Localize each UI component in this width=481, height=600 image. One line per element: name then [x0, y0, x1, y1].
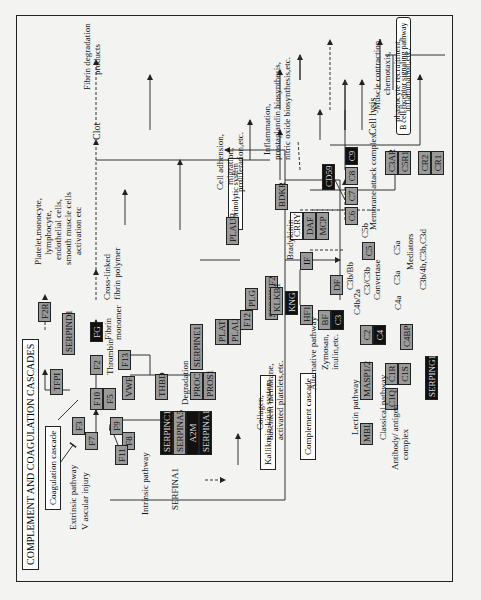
gene-MASP12[interactable]: MASP1/2: [360, 362, 373, 400]
label-mediators: Mediators: [405, 234, 415, 271]
gene-SERPINA5[interactable]: SERPINA5: [173, 411, 186, 455]
label-fdp-2: products: [92, 44, 102, 75]
gene-SERPINE1[interactable]: SERPINE1: [190, 324, 203, 370]
gene-CR1[interactable]: CR1: [431, 151, 444, 175]
label-platelet-1: Platelet,monocyte,: [33, 198, 43, 265]
label-muscle-1: Muscle contraction,: [372, 39, 382, 110]
label-crosslinked-2: fibrin polymer: [112, 248, 122, 300]
pathway-diagram: COMPLEMENT AND COAGULATION CASCADES Coag…: [0, 0, 481, 600]
gene-C8[interactable]: C8: [345, 167, 358, 185]
gene-C2[interactable]: C2: [360, 325, 373, 345]
label-vascular: V ascular injury: [80, 472, 90, 530]
gene-F7[interactable]: F7: [85, 432, 98, 450]
gene-C3AR[interactable]: C3AR: [385, 151, 398, 175]
gene-C3[interactable]: C3: [331, 310, 344, 330]
gene-SERPING1[interactable]: SERPING1: [425, 356, 438, 400]
label-lectin: Lectin pathway: [350, 379, 360, 435]
label-muscle-3: phagocyte recruitment,: [392, 39, 402, 122]
label-c3b-list: C3b/4b,C3b,C3d: [418, 229, 428, 290]
label-collagen-3: activated platelets,etc.: [275, 360, 285, 440]
gene-PLAUR[interactable]: PLAUR: [226, 217, 239, 245]
label-fibrin-monomer-2: monomer: [113, 306, 123, 341]
gene-C5R1[interactable]: C5R1: [398, 151, 411, 175]
label-celladh-3: proliferation,etc.: [235, 132, 245, 192]
label-classical: Classical pathway: [378, 375, 388, 440]
gene-A2M[interactable]: A2M: [186, 411, 199, 455]
label-crosslinked-1: Cross-linked: [102, 254, 112, 300]
gene-SERPINC1[interactable]: SERPINC1: [160, 411, 173, 455]
label-c4b-2a: C4b/2a: [352, 289, 362, 315]
gene-SERPIND1[interactable]: SERPIND1: [62, 313, 75, 355]
label-thrombin: Thrombin: [105, 339, 115, 375]
label-celladh-2: migration,: [225, 148, 235, 185]
label-convertase-2: Convertase: [372, 260, 382, 301]
label-collagen-1: Collagen,: [255, 395, 265, 430]
gene-F2R[interactable]: F2R: [38, 302, 51, 322]
gene-F10[interactable]: F10: [90, 388, 103, 410]
gene-TFPI[interactable]: TFPI: [50, 369, 63, 395]
gene-C4[interactable]: C4: [373, 325, 386, 345]
gene-F2[interactable]: F2: [90, 355, 103, 375]
label-antibody-2: complex: [400, 429, 410, 460]
gene-DAF[interactable]: DAF: [303, 212, 316, 240]
gene-C5[interactable]: C5: [362, 242, 375, 260]
label-inflam-3: nitric oxide biosynthesis,etc.: [282, 57, 292, 160]
gene-F5[interactable]: F5: [103, 388, 116, 410]
gene-F11[interactable]: F11: [115, 445, 128, 465]
label-inflam-1: Inflammation,: [262, 104, 272, 155]
label-c5a: C5a: [392, 241, 402, 256]
gene-KNG[interactable]: KNG: [285, 291, 298, 315]
gene-C6[interactable]: C6: [345, 207, 358, 225]
gene-C1S[interactable]: C1S: [398, 363, 411, 385]
gene-F3[interactable]: F3: [72, 417, 85, 435]
gene-PLG[interactable]: PLG: [245, 288, 258, 310]
gene-F12[interactable]: F12: [240, 310, 253, 330]
label-muscle-4: inflammation,etc.: [402, 49, 412, 112]
gene-THBD[interactable]: THBD: [155, 374, 168, 400]
gene-BF[interactable]: BF: [318, 310, 331, 330]
gene-IF[interactable]: IF: [300, 252, 313, 270]
diagram-title: COMPLEMENT AND COAGULATION CASCADES: [22, 339, 39, 570]
gene-KLKB1[interactable]: KLKB1: [270, 287, 283, 315]
label-platelet-5: activation etc: [73, 207, 83, 255]
gene-MCP[interactable]: MCP: [316, 212, 329, 240]
gene-F13[interactable]: F13: [118, 350, 131, 370]
gene-MBL[interactable]: MBL: [360, 423, 373, 445]
label-zymosan-2: inulin,etc.: [330, 334, 340, 370]
label-collagen-2: basement membrane,: [265, 364, 275, 440]
label-extrinsic: Extrinsic pathway: [68, 465, 78, 530]
gene-FG[interactable]: FG: [90, 322, 103, 342]
gene-PROS1[interactable]: PROS1: [203, 372, 216, 400]
gene-SERPINA1[interactable]: SERPINA1: [199, 411, 212, 455]
label-c3b-bb: C3b/Bb: [345, 262, 355, 290]
label-convertase-1: C3/C3b: [362, 267, 372, 295]
label-serpina1: SERFINA1: [170, 468, 180, 510]
label-mac: Membrane attack complex: [368, 134, 378, 230]
label-clot: Clot: [92, 123, 102, 140]
label-alternative: Alternative pathway: [308, 317, 318, 390]
gene-VWF[interactable]: VWF: [122, 376, 135, 400]
gene-C4BP[interactable]: C4BP: [400, 324, 413, 350]
label-antibody-1: Antibody/ antigen: [390, 405, 400, 470]
gene-CR2[interactable]: CR2: [418, 151, 431, 175]
gene-PROC[interactable]: PROC: [190, 372, 203, 400]
gene-C7[interactable]: C7: [345, 187, 358, 205]
label-fdp-1: Fibrin degradation: [82, 23, 92, 90]
gene-BDKR[interactable]: BDKR: [275, 184, 288, 210]
label-degradation: Degradation: [180, 361, 190, 405]
gene-DF[interactable]: DF: [330, 275, 343, 295]
gene-CD59[interactable]: CD59: [322, 164, 335, 190]
gene-PLAT[interactable]: PLAT: [215, 319, 228, 345]
label-platelet-2: lymphocyte,: [43, 210, 53, 255]
label-muscle-2: chemotaxis,: [382, 52, 392, 95]
label-platelet-4: smooth muscle cells: [63, 192, 73, 265]
label-celladh-1: Cell adhension,: [215, 134, 225, 190]
label-platelet-3: endothelial cells,: [53, 199, 63, 260]
label-c4a: C4a: [393, 296, 403, 311]
label-zymosan-1: Zymosan,: [320, 334, 330, 370]
label-c3a: C3a: [392, 271, 402, 286]
label-fibrin-monomer-1: Fibrin: [103, 318, 113, 340]
gene-C9[interactable]: C9: [345, 147, 358, 165]
label-intrinsic: Intrinsic pathway: [140, 452, 150, 515]
label-inflam-2: prostaglandin biosynthesis,: [272, 62, 282, 160]
